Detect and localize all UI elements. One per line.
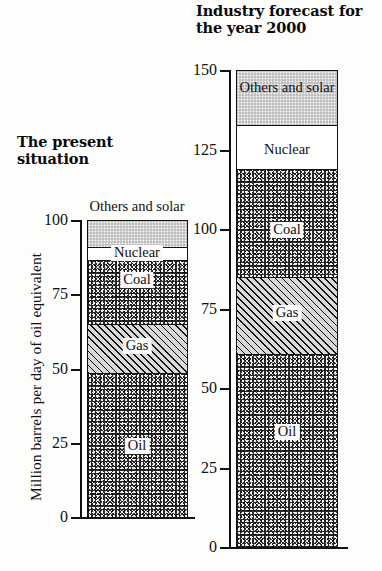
left-chart-title: The present situation [17, 133, 177, 167]
left-tick-75 [71, 294, 82, 296]
right-ticklabel-125: 125 [173, 142, 217, 158]
left-ticklabel-50: 50 [24, 361, 68, 377]
left-label-oil: Oil [125, 438, 150, 454]
right-ticklabel-25: 25 [173, 460, 217, 476]
left-ticklabel-100: 100 [24, 212, 68, 228]
right-tick-125 [220, 150, 231, 152]
right-label-oil: Oil [275, 424, 300, 440]
left-label-gas: Gas [123, 338, 152, 354]
left-label-others-and-solar: Others and solar [82, 199, 192, 215]
y-axis-caption: Million barrels per day of oil equivalen… [27, 212, 45, 542]
right-label-nuclear: Nuclear [261, 142, 313, 158]
right-tick-50 [220, 388, 231, 390]
right-ticklabel-100: 100 [173, 221, 217, 237]
right-tick-25 [220, 468, 231, 470]
left-tick-100 [71, 220, 82, 222]
left-ticklabel-75: 75 [24, 286, 68, 302]
right-ticklabel-150: 150 [173, 62, 217, 78]
left-tick-0 [71, 517, 82, 519]
left-tick-25 [71, 443, 82, 445]
figure-canvas: Industry forecast for the year 2000 The … [0, 0, 382, 571]
left-label-coal: Coal [120, 272, 153, 288]
right-tick-75 [220, 309, 231, 311]
left-tick-50 [71, 369, 82, 371]
left-ticklabel-0: 0 [24, 509, 68, 525]
left-label-nuclear: Nuclear [111, 245, 163, 261]
right-tick-100 [220, 229, 231, 231]
right-tick-150 [220, 70, 231, 72]
right-label-gas: Gas [273, 305, 302, 321]
right-ticklabel-75: 75 [173, 301, 217, 317]
right-label-others-and-solar: Others and solar [232, 80, 342, 96]
right-chart-title: Industry forecast for the year 2000 [196, 2, 382, 36]
right-label-coal: Coal [270, 222, 303, 238]
right-tick-0 [220, 547, 231, 549]
right-ticklabel-0: 0 [173, 539, 217, 555]
right-segment-oil [237, 354, 337, 548]
right-ticklabel-50: 50 [173, 380, 217, 396]
left-ticklabel-25: 25 [24, 435, 68, 451]
